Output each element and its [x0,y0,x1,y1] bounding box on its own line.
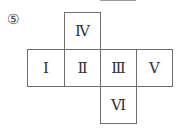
face-v: Ⅴ [136,49,173,87]
face-label: Ⅱ [77,59,87,77]
partial-top-border [100,0,136,1]
figure-label: ⑤ [7,12,20,26]
face-iii: Ⅲ [100,49,137,87]
face-label: Ⅵ [111,96,126,114]
face-label: Ⅳ [75,22,90,40]
face-label: Ⅴ [149,59,160,77]
face-ii: Ⅱ [64,49,101,87]
face-iv: Ⅳ [64,12,101,50]
face-i: Ⅰ [27,49,65,87]
face-label: Ⅲ [111,59,125,77]
face-vi: Ⅵ [100,86,137,124]
face-label: Ⅰ [43,59,49,77]
